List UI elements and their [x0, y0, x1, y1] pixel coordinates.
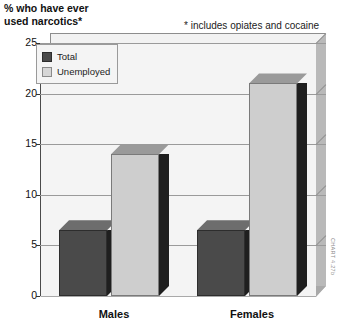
bar-females-total — [197, 230, 245, 296]
chart-footnote: * includes opiates and cocaine — [184, 20, 319, 31]
x-tick-label: Females — [230, 308, 274, 320]
legend-swatch-total — [42, 52, 52, 62]
bar-males-total — [59, 230, 107, 296]
legend-label: Total — [57, 51, 77, 62]
bar-top-face — [197, 220, 255, 230]
x-tick-label: Males — [99, 308, 130, 320]
y-axis: 0510152025 — [0, 33, 37, 306]
legend-item-unemployed: Unemployed — [42, 64, 113, 79]
bar-side-face — [297, 83, 307, 296]
legend-label: Unemployed — [57, 66, 110, 77]
bar-males-unemployed — [111, 154, 159, 296]
plot-right-wall — [316, 33, 326, 296]
y-tick-label: 20 — [3, 87, 37, 99]
bar-top-face — [111, 144, 169, 154]
y-tick-label: 10 — [3, 188, 37, 200]
bar-front-face — [197, 230, 245, 296]
chart-title: % who have ever used narcotics* — [4, 2, 154, 27]
bar-front-face — [59, 230, 107, 296]
chart-legend: TotalUnemployed — [36, 44, 118, 84]
chart-figure: % who have ever used narcotics* * includ… — [0, 0, 337, 333]
source-credit: CHART 4.27b — [330, 238, 336, 275]
bar-top-face — [249, 73, 307, 83]
y-tick-label: 15 — [3, 137, 37, 149]
bar-females-unemployed — [249, 83, 297, 296]
bar-group-females — [197, 43, 297, 296]
x-axis-labels: MalesFemales — [40, 308, 326, 326]
bar-side-face — [159, 154, 169, 296]
bar-front-face — [249, 83, 297, 296]
y-tick-label: 25 — [3, 36, 37, 48]
legend-item-total: Total — [42, 49, 113, 64]
bar-front-face — [111, 154, 159, 296]
y-tick-label: 5 — [3, 238, 37, 250]
bar-top-face — [59, 220, 117, 230]
y-tick-label: 0 — [3, 289, 37, 301]
legend-swatch-unemployed — [42, 67, 52, 77]
